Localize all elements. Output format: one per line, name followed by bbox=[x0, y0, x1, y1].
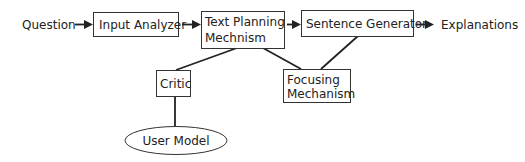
node-user-model-label: User Model bbox=[142, 134, 209, 148]
node-text-planning-mechanism: Text Planning Mechnism bbox=[202, 12, 285, 49]
node-focusing-label-line1: Focusing bbox=[287, 73, 340, 87]
node-critic-label: Critic bbox=[160, 77, 191, 91]
explanations-label: Explanations bbox=[441, 18, 518, 32]
question-label: Question bbox=[22, 18, 76, 32]
node-input-analyzer: Input Analyzer bbox=[94, 13, 187, 37]
edge-textplanning-critic bbox=[176, 48, 237, 70]
edge-sentencegen-focusing bbox=[321, 36, 358, 69]
node-critic: Critic bbox=[157, 71, 192, 97]
node-sentence-generator: Sentence Generator bbox=[302, 11, 428, 37]
architecture-diagram: Question Input Analyzer Text Planning Me… bbox=[0, 0, 525, 162]
edge-textplanning-focusing bbox=[263, 48, 301, 69]
node-focusing-mechanism: Focusing Mechanism bbox=[284, 70, 356, 103]
node-text-planning-label-line1: Text Planning bbox=[204, 15, 285, 29]
node-sentence-generator-label: Sentence Generator bbox=[306, 17, 427, 31]
node-input-analyzer-label: Input Analyzer bbox=[99, 18, 186, 32]
node-text-planning-label-line2: Mechnism bbox=[205, 31, 266, 45]
node-focusing-label-line2: Mechanism bbox=[287, 87, 355, 101]
arrow-question-to-input-analyzer bbox=[75, 20, 93, 29]
arrow-text-planning-to-sentence-generator bbox=[287, 20, 301, 29]
node-user-model: User Model bbox=[125, 127, 227, 155]
